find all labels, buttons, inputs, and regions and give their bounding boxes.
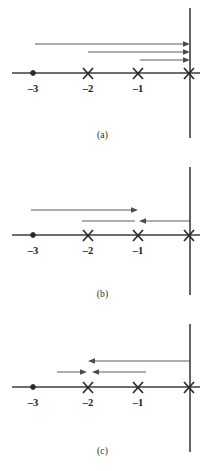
panel-a-plot: –3 –2 –1 <box>0 0 205 150</box>
tick-label-minus1: –1 <box>132 245 144 256</box>
locus-branch-2 <box>82 218 190 223</box>
panel-a: –3 –2 –1 (a) <box>0 0 205 150</box>
tick-label-minus1: –1 <box>132 397 144 408</box>
panel-c: –3 –2 –1 (c) <box>0 312 205 471</box>
panel-c-plot: –3 –2 –1 <box>0 312 205 462</box>
zero-marker-minus3 <box>31 71 36 76</box>
locus-branch-1 <box>31 207 138 212</box>
locus-branch-3 <box>140 57 190 62</box>
tick-label-minus1: –1 <box>132 83 144 94</box>
panel-c-caption: (c) <box>0 446 205 456</box>
tick-label-minus2: –2 <box>82 397 94 408</box>
panel-a-caption: (a) <box>0 130 205 140</box>
panel-b: –3 –2 –1 (b) <box>0 155 205 305</box>
locus-branch-2 <box>88 49 190 54</box>
root-locus-figure: –3 –2 –1 (a) <box>0 0 205 471</box>
tick-label-minus2: –2 <box>82 245 94 256</box>
panel-b-caption: (b) <box>0 289 205 299</box>
locus-branch-1 <box>88 358 190 363</box>
zero-marker-minus3 <box>31 385 36 390</box>
tick-label-minus2: –2 <box>82 83 94 94</box>
tick-label-minus3: –3 <box>27 83 39 94</box>
tick-label-minus3: –3 <box>27 397 39 408</box>
locus-branch-2 <box>57 369 87 374</box>
locus-branch-3 <box>92 369 146 374</box>
panel-b-plot: –3 –2 –1 <box>0 155 205 305</box>
tick-label-minus3: –3 <box>27 245 39 256</box>
zero-marker-minus3 <box>31 233 36 238</box>
locus-branch-1 <box>35 41 190 46</box>
